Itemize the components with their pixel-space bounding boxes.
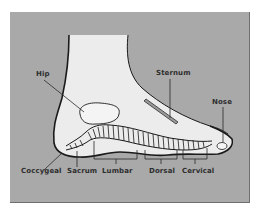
label-nose: Nose [212, 98, 232, 106]
label-lumbar: Lumbar [102, 167, 133, 175]
label-dorsal: Dorsal [149, 167, 175, 175]
nose-area [217, 143, 227, 150]
label-sternum: Sternum [156, 69, 191, 77]
foot-outline [54, 35, 233, 157]
label-hip: Hip [36, 70, 50, 78]
foot-diagram [0, 0, 264, 212]
hip-area [80, 103, 120, 124]
label-cervical: Cervical [182, 167, 214, 175]
label-sacrum: Sacrum [67, 167, 97, 175]
label-coccygeal: Coccygeal [21, 167, 62, 175]
